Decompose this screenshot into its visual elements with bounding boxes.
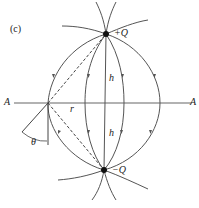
field-line-inner-right — [104, 34, 124, 170]
dashed-line-to-positive — [48, 34, 106, 103]
field-line-bottom-left — [58, 170, 104, 180]
field-line-bottom-right — [104, 170, 148, 189]
axis-label-right: A — [190, 97, 196, 107]
h-lower-label: h — [109, 128, 114, 138]
axis-label-left: A — [4, 97, 10, 107]
field-line-outer-right — [104, 34, 160, 170]
negative-charge — [101, 167, 107, 173]
h-upper-label: h — [109, 73, 114, 83]
r-label: r — [70, 104, 74, 114]
positive-charge-label: +Q — [114, 28, 128, 38]
field-line-top-left — [62, 26, 106, 34]
positive-charge — [103, 31, 109, 37]
arrowheads — [52, 74, 156, 134]
angle-ray — [22, 103, 48, 132]
panel-label: (c) — [10, 24, 21, 34]
dashed-line-to-negative — [48, 103, 104, 170]
center-field-line — [104, 34, 106, 170]
negative-charge-label: −Q — [112, 165, 126, 175]
field-line-down-left — [92, 170, 104, 200]
field-line-inner-left — [85, 34, 106, 170]
theta-label: θ — [31, 137, 36, 147]
dipole-field-diagram — [0, 0, 199, 208]
field-line-up-left — [96, 2, 106, 34]
field-line-outer-left — [48, 34, 106, 170]
